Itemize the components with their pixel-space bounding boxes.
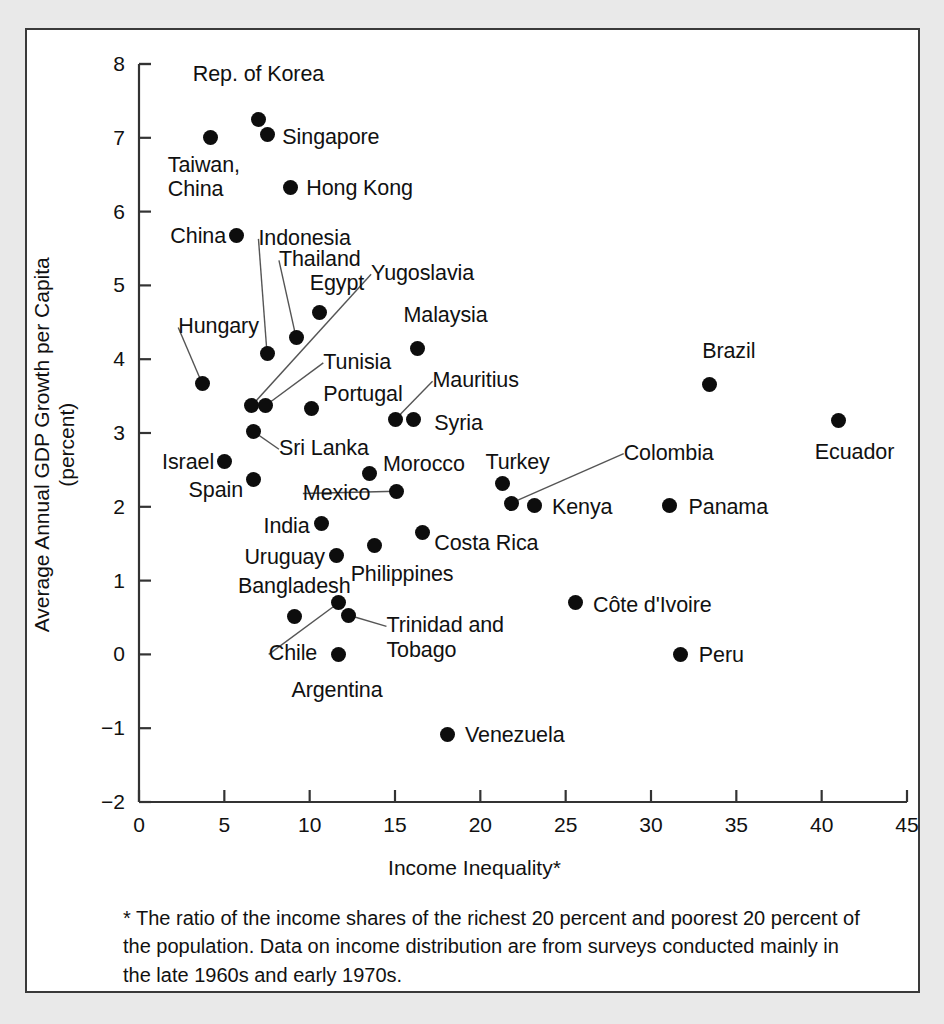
y-axis-title-line2: (percent) <box>55 165 80 725</box>
data-point-label: India <box>264 514 310 539</box>
data-point[interactable] <box>331 647 346 662</box>
data-point-label: Panama <box>689 495 768 520</box>
data-point-label: Côte d'Ivoire <box>593 593 712 618</box>
data-point[interactable] <box>217 454 232 469</box>
data-point-label: Morocco <box>383 452 465 477</box>
x-tick-label: 25 <box>544 814 588 835</box>
y-tick-label: 3 <box>85 422 125 443</box>
y-tick-label: 7 <box>85 127 125 148</box>
data-point-label: Singapore <box>282 125 379 150</box>
data-point-label: Spain <box>189 478 244 503</box>
data-point[interactable] <box>314 516 329 531</box>
x-tick-label: 20 <box>458 814 502 835</box>
y-axis-title: Average Annual GDP Growth per Capita (pe… <box>30 165 80 725</box>
data-point-label: Colombia <box>624 441 714 466</box>
data-point-label: Sri Lanka <box>279 436 369 461</box>
data-point[interactable] <box>258 398 273 413</box>
x-tick-label: 30 <box>629 814 673 835</box>
footnote-text: * The ratio of the income shares of the … <box>123 904 863 989</box>
data-point[interactable] <box>662 498 677 513</box>
y-axis-title-line1: Average Annual GDP Growth per Capita <box>30 165 55 725</box>
data-point[interactable] <box>389 484 404 499</box>
data-point-label: Peru <box>699 643 744 668</box>
y-tick-label: 1 <box>85 570 125 591</box>
data-point[interactable] <box>702 377 717 392</box>
data-point[interactable] <box>440 727 455 742</box>
data-point-label: China <box>170 224 226 249</box>
data-point[interactable] <box>260 346 275 361</box>
data-point-label: Hungary <box>178 314 259 339</box>
data-point-label: Thailand <box>279 247 361 272</box>
data-point[interactable] <box>367 538 382 553</box>
data-point-label: Syria <box>434 411 482 436</box>
x-tick-label: 10 <box>288 814 332 835</box>
data-point[interactable] <box>410 341 425 356</box>
data-point[interactable] <box>415 525 430 540</box>
data-point-label: Trinidad and Tobago <box>386 613 504 662</box>
y-tick-label: 4 <box>85 348 125 369</box>
y-tick-label: 6 <box>85 201 125 222</box>
data-point[interactable] <box>289 330 304 345</box>
data-point-label: Malaysia <box>404 303 488 328</box>
data-point-label: Argentina <box>291 678 382 703</box>
data-point-label: Uruguay <box>244 545 325 570</box>
x-tick-label: 5 <box>202 814 246 835</box>
x-tick-label: 15 <box>373 814 417 835</box>
y-tick-label: 8 <box>85 53 125 74</box>
data-point-label: Taiwan, China <box>168 153 240 202</box>
data-point-label: Bangladesh <box>238 574 351 599</box>
data-point[interactable] <box>246 424 261 439</box>
y-tick-label: 0 <box>85 643 125 664</box>
data-point-label: Philippines <box>351 562 454 587</box>
y-tick-label: 5 <box>85 274 125 295</box>
data-point[interactable] <box>362 466 377 481</box>
data-point[interactable] <box>251 112 266 127</box>
x-tick-label: 45 <box>885 814 929 835</box>
data-point[interactable] <box>304 401 319 416</box>
x-tick-label: 0 <box>117 814 161 835</box>
y-tick-label: −1 <box>85 717 125 738</box>
data-point[interactable] <box>504 496 519 511</box>
data-point[interactable] <box>287 609 302 624</box>
data-point-label: Egypt <box>310 271 364 296</box>
x-axis-title: Income Inequality* <box>27 856 922 880</box>
data-point-label: Turkey <box>485 450 549 475</box>
y-tick-label: 2 <box>85 496 125 517</box>
x-tick-label: 40 <box>800 814 844 835</box>
scatter-plot-area: Rep. of KoreaSingaporeTaiwan, ChinaHong … <box>27 30 918 991</box>
data-point[interactable] <box>246 472 261 487</box>
data-point-label: Hong Kong <box>306 176 413 201</box>
data-point-label: Israel <box>162 450 214 475</box>
figure-panel: Rep. of KoreaSingaporeTaiwan, ChinaHong … <box>25 28 920 993</box>
data-point-label: Brazil <box>702 339 755 364</box>
x-tick-label: 35 <box>714 814 758 835</box>
data-point[interactable] <box>260 127 275 142</box>
data-point-label: Ecuador <box>815 440 894 465</box>
data-point-label: Mauritius <box>433 368 519 393</box>
data-point-label: Kenya <box>552 495 612 520</box>
figure-container: Rep. of KoreaSingaporeTaiwan, ChinaHong … <box>0 0 944 1024</box>
y-tick-label: −2 <box>85 791 125 812</box>
data-point[interactable] <box>195 376 210 391</box>
data-point-label: Mexico <box>303 481 371 506</box>
data-point-label: Yugoslavia <box>371 261 474 286</box>
data-point-label: Rep. of Korea <box>193 62 324 87</box>
data-point[interactable] <box>495 476 510 491</box>
data-point[interactable] <box>673 647 688 662</box>
data-point-label: Tunisia <box>323 350 391 375</box>
data-point-label: Venezuela <box>465 723 565 748</box>
data-point-label: Chile <box>269 641 318 666</box>
plot-axes-svg <box>27 30 922 995</box>
data-point-label: Costa Rica <box>434 531 538 556</box>
data-point-label: Portugal <box>323 382 402 407</box>
data-point[interactable] <box>388 412 403 427</box>
